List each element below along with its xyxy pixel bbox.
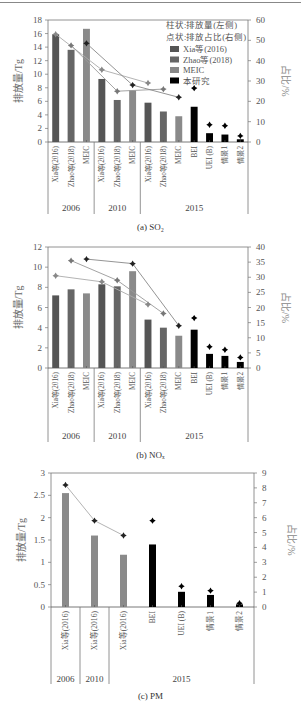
category-label: MEIC <box>83 372 91 390</box>
right-axis-title: 占比/% <box>286 524 298 555</box>
left-tick-label: 2 <box>38 343 43 353</box>
share-marker-9 <box>191 315 197 321</box>
bar-9 <box>191 330 198 368</box>
left-tick-label: 0 <box>38 137 43 147</box>
bar-4 <box>114 286 121 368</box>
share-marker-0 <box>53 273 59 279</box>
category-label: 情景1 <box>220 372 229 390</box>
right-tick-label: 6 <box>262 513 267 523</box>
share-marker-4 <box>178 583 184 589</box>
share-marker-5 <box>207 587 213 593</box>
share-marker-7 <box>160 310 166 317</box>
legend-label-1: Zhao等(2018) <box>183 55 232 65</box>
right-tick-label: 0 <box>256 363 261 373</box>
legend-line-points: 点状:排放占比(右侧) <box>166 32 246 42</box>
category-label: MEIC <box>83 146 91 164</box>
share-marker-12 <box>237 354 243 360</box>
bar-6 <box>145 320 152 368</box>
category-label: 情景2 <box>234 611 244 631</box>
right-tick-label: 5 <box>256 348 261 358</box>
bar-6 <box>145 103 152 142</box>
bar-10 <box>206 354 213 368</box>
category-label: Xia等(2016) <box>97 145 106 182</box>
category-label: MEIC <box>175 146 183 164</box>
right-axis-title: 占比/% <box>280 65 292 96</box>
left-tick-label: 8 <box>38 83 43 93</box>
so2-caption: (a) SO₂ <box>0 222 301 232</box>
right-tick-label: 25 <box>256 287 266 297</box>
legend-swatch-2 <box>170 67 179 73</box>
category-label: Xia等(2016) <box>89 611 99 651</box>
share-marker-5 <box>129 260 135 266</box>
bar-0 <box>52 34 59 142</box>
bar-1 <box>91 536 98 607</box>
category-label: BEI <box>191 371 199 383</box>
right-tick-label: 15 <box>256 318 266 328</box>
share-marker-11 <box>222 123 228 129</box>
bar-2 <box>83 293 90 368</box>
right-tick-label: 50 <box>256 35 266 45</box>
legend-swatch-0 <box>170 46 179 52</box>
top-rule <box>0 2 301 3</box>
share-line-xia <box>66 485 124 536</box>
year-label-2010: 2010 <box>108 203 127 213</box>
share-marker-9 <box>191 85 197 91</box>
bar-9 <box>191 107 198 142</box>
left-tick-label: 14 <box>33 42 43 52</box>
share-marker-8 <box>176 323 182 329</box>
category-label: Xia等(2016) <box>97 371 106 408</box>
left-tick-label: 18 <box>33 15 43 25</box>
category-label: Xia等(2016) <box>60 611 70 651</box>
pm-chart: 00.511.522.530123456789排放量/Tg占比/%Xia等(20… <box>0 462 301 684</box>
pm-caption: (c) PM <box>0 691 301 701</box>
left-tick-label: 10 <box>33 262 43 272</box>
category-label: 情景1 <box>220 146 229 164</box>
left-tick-label: 12 <box>33 56 42 66</box>
bar-1 <box>68 289 75 368</box>
share-marker-6 <box>145 80 151 86</box>
right-tick-label: 20 <box>256 96 266 106</box>
year-label-2006: 2006 <box>62 203 81 213</box>
left-tick-label: 0 <box>38 363 43 373</box>
bar-2 <box>120 555 127 607</box>
category-label: MEIC <box>175 372 183 390</box>
left-tick-label: 0 <box>41 602 46 612</box>
share-marker-2 <box>120 532 126 538</box>
chart-svg: 00.511.522.530123456789排放量/Tg占比/%Xia等(20… <box>0 462 301 684</box>
category-label: BEI <box>148 611 157 624</box>
category-label: 情景1 <box>205 611 215 631</box>
category-label: MEIC <box>129 146 137 164</box>
category-label: Xia等(2016) <box>144 145 153 182</box>
category-label: Zhao等(2018) <box>113 371 122 413</box>
category-label: 情景2 <box>236 146 245 164</box>
left-tick-label: 2.5 <box>34 490 46 500</box>
bar-8 <box>175 116 182 142</box>
share-marker-12 <box>237 133 243 139</box>
right-tick-label: 1 <box>262 587 267 597</box>
right-tick-label: 4 <box>262 542 267 552</box>
right-tick-label: 30 <box>256 76 266 86</box>
right-tick-label: 35 <box>256 257 266 267</box>
left-tick-label: 12 <box>33 242 42 252</box>
share-marker-3 <box>149 517 155 523</box>
share-marker-1 <box>68 257 74 263</box>
category-label: UEI (B) <box>206 145 214 169</box>
bar-7 <box>160 328 167 368</box>
left-tick-label: 1 <box>41 557 46 567</box>
chart-svg: 0246810120510152025303540排放量/Tg占比/%Xia等(… <box>0 236 301 444</box>
category-label: BEI <box>191 145 199 157</box>
right-tick-label: 3 <box>262 557 267 567</box>
left-tick-label: 4 <box>38 110 43 120</box>
bar-8 <box>175 336 182 368</box>
category-label: Zhao等(2018) <box>67 145 76 187</box>
share-marker-6 <box>145 301 151 307</box>
left-tick-label: 6 <box>38 96 43 106</box>
right-tick-label: 0 <box>256 137 261 147</box>
category-label: Xia等(2016) <box>144 371 153 408</box>
category-label: Zhao等(2018) <box>159 145 168 187</box>
legend-label-0: Xia等(2016) <box>183 44 227 54</box>
right-tick-label: 5 <box>262 528 267 538</box>
left-axis-title: 排放量/Tg <box>15 518 27 562</box>
left-tick-label: 2 <box>38 123 43 133</box>
year-label-2010: 2010 <box>86 674 105 684</box>
